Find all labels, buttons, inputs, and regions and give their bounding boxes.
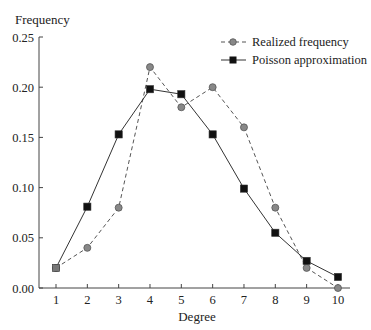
- y-tick-label: 0.15: [12, 131, 34, 145]
- circle-marker-icon: [230, 39, 237, 46]
- y-tick-label: 0.20: [12, 81, 34, 95]
- legend-item-poisson: Poisson approximation: [221, 53, 368, 67]
- circle-marker-icon: [209, 84, 216, 91]
- series-line: [56, 89, 338, 277]
- x-tick-label: 4: [147, 293, 154, 307]
- plot-series: [52, 64, 341, 292]
- circle-marker-icon: [146, 64, 153, 71]
- circle-marker-icon: [272, 204, 279, 211]
- y-tick-label: 0.25: [12, 31, 34, 45]
- axes: 0.000.050.100.150.200.2512345678910: [12, 31, 350, 308]
- legend-label: Realized frequency: [252, 35, 350, 49]
- x-tick-label: 10: [332, 293, 345, 307]
- circle-marker-icon: [334, 285, 341, 292]
- x-tick-label: 7: [241, 293, 247, 307]
- square-marker-icon: [146, 86, 153, 93]
- square-marker-icon: [52, 264, 59, 271]
- square-marker-icon: [115, 131, 122, 138]
- square-marker-icon: [272, 229, 279, 236]
- circle-marker-icon: [115, 204, 122, 211]
- square-marker-icon: [303, 257, 310, 264]
- legend-label: Poisson approximation: [252, 53, 368, 67]
- circle-marker-icon: [84, 244, 91, 251]
- y-tick-label: 0.05: [12, 231, 34, 245]
- circle-marker-icon: [240, 124, 247, 131]
- square-marker-icon: [240, 185, 247, 192]
- square-marker-icon: [230, 57, 237, 64]
- series-line: [56, 67, 338, 288]
- y-tick-label: 0.00: [12, 282, 34, 296]
- y-axis-label: Frequency: [15, 12, 70, 27]
- circle-marker-icon: [178, 104, 185, 111]
- x-tick-label: 8: [272, 293, 278, 307]
- legend: Realized frequency Poisson approximation: [221, 35, 368, 67]
- square-marker-icon: [334, 273, 341, 280]
- x-tick-label: 3: [116, 293, 122, 307]
- x-axis-label: Degree: [178, 309, 216, 324]
- x-tick-label: 9: [304, 293, 310, 307]
- square-marker-icon: [178, 91, 185, 98]
- y-tick-label: 0.10: [12, 181, 34, 195]
- square-marker-icon: [209, 131, 216, 138]
- x-tick-label: 1: [53, 293, 59, 307]
- x-tick-label: 2: [84, 293, 90, 307]
- x-tick-label: 6: [210, 293, 216, 307]
- x-tick-label: 5: [178, 293, 184, 307]
- square-marker-icon: [84, 203, 91, 210]
- chart: Frequency 0.000.050.100.150.200.25123456…: [0, 0, 371, 330]
- legend-item-realized: Realized frequency: [221, 35, 350, 49]
- circle-marker-icon: [303, 264, 310, 271]
